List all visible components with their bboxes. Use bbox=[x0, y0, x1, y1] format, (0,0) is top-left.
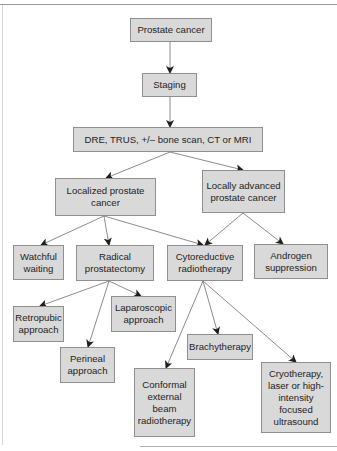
node-retropubic: Retropubic approach bbox=[13, 306, 64, 342]
node-locally-advanced: Locally advanced prostate cancer bbox=[202, 170, 285, 213]
node-label: Androgen suppression bbox=[265, 250, 317, 274]
node-label: Radical prostatectomy bbox=[85, 251, 145, 275]
node-radical-prostatectomy: Radical prostatectomy bbox=[76, 245, 154, 281]
node-label: Locally advanced prostate cancer bbox=[206, 180, 280, 204]
node-label: Watchful waiting bbox=[20, 251, 57, 275]
node-label: Laparoscopic approach bbox=[115, 302, 172, 326]
edge-advanced-androgen bbox=[243, 213, 283, 244]
edge-radical-laparoscopic bbox=[109, 281, 141, 296]
edge-localized-radical bbox=[104, 216, 109, 245]
edge-cyto-brachy bbox=[203, 281, 218, 334]
node-brachytherapy: Brachytherapy bbox=[187, 334, 253, 360]
node-conformal: Conformal external beam radiotherapy bbox=[134, 368, 195, 437]
node-androgen-suppression: Androgen suppression bbox=[254, 244, 328, 279]
edge-dre-advanced bbox=[170, 152, 243, 170]
node-prostate-cancer: Prostate cancer bbox=[130, 18, 212, 42]
edge-localized-cytoreductive bbox=[104, 216, 203, 245]
node-label: Staging bbox=[153, 79, 186, 91]
node-cryotherapy: Cryotherapy, laser or high- intensity fo… bbox=[261, 362, 331, 433]
node-label: Prostate cancer bbox=[137, 24, 204, 36]
node-label: Brachytherapy bbox=[189, 341, 251, 353]
node-label: Cytoreductive radiotherapy bbox=[176, 251, 235, 275]
node-localized: Localized prostate cancer bbox=[55, 178, 156, 216]
node-label: Localized prostate cancer bbox=[67, 185, 145, 209]
node-cytoreductive-radiotherapy: Cytoreductive radiotherapy bbox=[167, 245, 243, 281]
edge-localized-watchful bbox=[41, 216, 104, 245]
edge-advanced-cytoreductive bbox=[205, 213, 243, 245]
node-staging-tests: DRE, TRUS, +/– bone scan, CT or MRI bbox=[73, 127, 263, 152]
node-laparoscopic: Laparoscopic approach bbox=[111, 296, 176, 332]
node-perineal: Perineal approach bbox=[60, 347, 115, 383]
edge-radical-retropubic bbox=[40, 281, 109, 306]
node-label: Retropubic approach bbox=[15, 312, 61, 336]
edge-radical-perineal bbox=[88, 281, 109, 347]
edge-dre-localized bbox=[106, 152, 170, 178]
node-label: Cryotherapy, laser or high- intensity fo… bbox=[268, 368, 324, 428]
node-staging: Staging bbox=[142, 73, 197, 97]
node-label: Perineal approach bbox=[67, 353, 107, 377]
node-watchful-waiting: Watchful waiting bbox=[13, 245, 64, 280]
node-label: Conformal external beam radiotherapy bbox=[138, 379, 191, 427]
node-label: DRE, TRUS, +/– bone scan, CT or MRI bbox=[85, 134, 252, 146]
